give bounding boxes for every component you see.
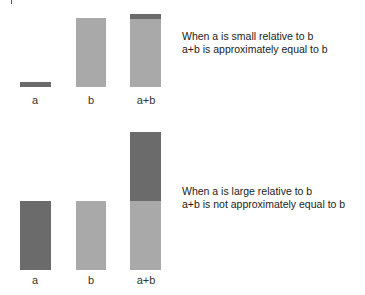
label-aplusb-large: a+b (126, 274, 166, 286)
caption-large-line1: When a is large relative to b (182, 185, 312, 198)
caption-large-line2: a+b is not approximately equal to b (182, 198, 345, 211)
caption-small-line1: When a is small relative to b (182, 30, 313, 43)
label-b-small: b (71, 94, 111, 106)
bar-aplusb-small-b-segment (130, 19, 161, 87)
bar-a-small (20, 82, 51, 87)
bar-b-small (76, 18, 106, 87)
corner-mark (11, 0, 12, 4)
bar-a-large (20, 201, 51, 270)
label-a-large: a (15, 274, 55, 286)
caption-small-line2: a+b is approximately equal to b (182, 43, 328, 56)
label-b-large: b (71, 274, 111, 286)
bar-b-large (76, 201, 106, 270)
label-aplusb-small: a+b (126, 94, 166, 106)
label-a-small: a (15, 94, 55, 106)
bar-aplusb-large-b-segment (130, 201, 161, 270)
bar-aplusb-large-a-segment (130, 132, 161, 201)
